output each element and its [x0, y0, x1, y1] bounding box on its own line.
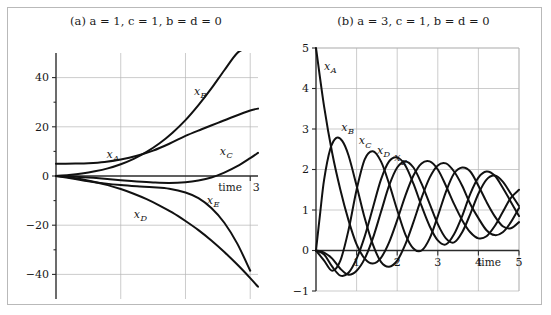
y-tick-label: 20 — [35, 121, 49, 134]
y-tick-label: 4 — [302, 82, 309, 95]
curve-label-x-d: xD — [377, 144, 391, 159]
y-tick-label: 2 — [302, 163, 309, 176]
curve-label-x-a: xA — [107, 148, 120, 163]
curve-labels: xAxBxCxDxE — [324, 60, 407, 166]
y-tick-label: 0 — [42, 170, 49, 183]
y-tick-label: 3 — [302, 123, 309, 136]
y-tick-label: −1 — [293, 285, 309, 298]
curve-label-x-b: xB — [341, 121, 354, 136]
panel-b-plot: 543210−112345timexAxBxCxDxE — [284, 8, 543, 306]
curve-label-x-e: xE — [207, 194, 220, 209]
curve-x-b — [56, 48, 247, 176]
figure-frame: (a) a = 1, c = 1, b = d = 0 40200−20−403… — [7, 7, 542, 305]
curve-labels: xAxBxCxDxE — [107, 85, 234, 223]
y-axis-ticks: 543210−1 — [293, 42, 316, 298]
x-tick-label: 3 — [253, 181, 260, 194]
x-tick-label: 3 — [434, 256, 441, 269]
y-tick-label: 1 — [302, 204, 309, 217]
x-axis-label: time — [218, 181, 242, 193]
y-tick-label: 40 — [35, 71, 49, 84]
curves — [316, 48, 519, 276]
chart-panel-a: (a) a = 1, c = 1, b = d = 0 40200−20−403… — [8, 8, 284, 304]
curves — [56, 48, 258, 287]
curve-label-x-b: xB — [194, 85, 207, 100]
y-tick-label: 5 — [302, 42, 309, 55]
x-axis-ticks: 3 — [250, 176, 260, 194]
curve-label-x-c: xC — [359, 134, 373, 149]
curve-label-x-e: xE — [394, 151, 407, 166]
panel-a-plot: 40200−20−403timexAxBxCxDxE — [8, 8, 284, 306]
y-tick-label: 0 — [302, 244, 309, 257]
curve-label-x-d: xD — [134, 208, 148, 223]
curve-label-x-a: xA — [324, 60, 337, 75]
y-tick-label: −40 — [26, 268, 49, 281]
chart-panel-b: (b) a = 3, c = 1, b = d = 0 543210−11234… — [284, 8, 543, 304]
y-tick-label: −20 — [26, 219, 49, 232]
y-axis-ticks: 40200−20−40 — [26, 71, 56, 281]
curve-label-x-c: xC — [220, 145, 234, 160]
axes — [56, 53, 258, 299]
x-axis-label: time — [477, 256, 501, 268]
curve-x-b — [316, 137, 519, 266]
x-tick-label: 5 — [516, 256, 523, 269]
